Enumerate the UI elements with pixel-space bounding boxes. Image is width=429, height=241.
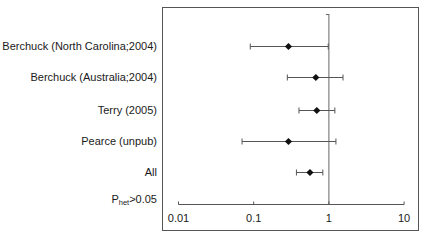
reference-line <box>326 14 329 205</box>
study-rows <box>242 43 343 176</box>
x-tick-label: 1 <box>326 212 332 224</box>
x-tick-label: 0.1 <box>246 212 261 224</box>
study-row <box>299 107 335 114</box>
study-row <box>296 169 322 176</box>
forest-plot: 0.010.1110 <box>0 0 429 241</box>
x-tick-label: 10 <box>398 212 410 224</box>
point-estimate-diamond <box>285 138 292 145</box>
study-row <box>287 74 343 81</box>
x-axis: 0.010.1110 <box>168 202 410 225</box>
point-estimate-diamond <box>313 107 320 114</box>
point-estimate-diamond <box>312 74 319 81</box>
plot-frame <box>163 8 419 231</box>
point-estimate-diamond <box>285 43 292 50</box>
study-row <box>242 138 336 145</box>
x-tick-label: 0.01 <box>168 212 189 224</box>
study-row <box>250 43 328 50</box>
point-estimate-diamond <box>306 169 313 176</box>
